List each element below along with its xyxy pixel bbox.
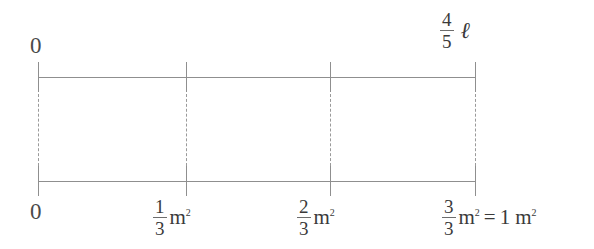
fraction-two-thirds: 2 3 bbox=[296, 197, 312, 238]
top-axis-line bbox=[38, 77, 476, 78]
unit-base: m bbox=[170, 205, 186, 229]
unit-base: m bbox=[515, 205, 531, 229]
top-axis-start-label: 0 bbox=[30, 34, 42, 57]
top-tick-0 bbox=[38, 62, 39, 92]
fraction-denominator: 3 bbox=[152, 218, 168, 238]
bottom-tick-3 bbox=[475, 166, 476, 196]
bottom-axis-label-three-thirds: 3 3 m2 = 1 m2 bbox=[441, 197, 537, 238]
unit-square-metre: m2 bbox=[457, 205, 480, 230]
unit-square-metre: m2 bbox=[168, 205, 191, 230]
fraction-denominator: 3 bbox=[296, 218, 312, 238]
unit-exponent: 2 bbox=[330, 207, 335, 218]
connector-dashed-1 bbox=[186, 94, 187, 166]
number-line-diagram: 0 4 5 ℓ 0 1 3 m2 2 3 m2 bbox=[0, 0, 594, 249]
top-axis-end-label: 4 5 ℓ bbox=[439, 10, 470, 51]
bottom-tick-0 bbox=[38, 166, 39, 196]
top-tick-2 bbox=[330, 62, 331, 92]
equivalent-value: 1 bbox=[500, 205, 511, 230]
top-tick-1 bbox=[186, 62, 187, 92]
bottom-tick-1 bbox=[186, 166, 187, 196]
connector-dashed-2 bbox=[330, 94, 331, 166]
top-tick-3 bbox=[475, 62, 476, 92]
unit-exponent: 2 bbox=[532, 207, 537, 218]
fraction-three-thirds: 3 3 bbox=[441, 197, 457, 238]
equivalent-unit-square-metre: m2 bbox=[510, 205, 536, 230]
bottom-axis-start-label: 0 bbox=[30, 200, 42, 223]
fraction-denominator: 3 bbox=[441, 218, 457, 238]
unit-base: m bbox=[459, 205, 475, 229]
fraction-numerator: 4 bbox=[439, 10, 455, 30]
fraction-numerator: 3 bbox=[441, 197, 457, 217]
bottom-axis-label-two-thirds: 2 3 m2 bbox=[296, 197, 335, 238]
fraction-denominator: 5 bbox=[439, 31, 455, 51]
bottom-axis-label-one-third: 1 3 m2 bbox=[152, 197, 191, 238]
bottom-tick-2 bbox=[330, 166, 331, 196]
fraction-one-third: 1 3 bbox=[152, 197, 168, 238]
fraction-four-fifths: 4 5 bbox=[439, 10, 455, 51]
connector-dashed-3 bbox=[475, 94, 476, 166]
ell-symbol: ℓ bbox=[455, 18, 471, 44]
bottom-axis-line bbox=[38, 181, 476, 182]
fraction-numerator: 1 bbox=[152, 197, 168, 217]
equals-sign: = bbox=[480, 205, 500, 230]
unit-exponent: 2 bbox=[186, 207, 191, 218]
unit-base: m bbox=[314, 205, 330, 229]
connector-dashed-0 bbox=[38, 94, 39, 166]
fraction-numerator: 2 bbox=[296, 197, 312, 217]
unit-square-metre: m2 bbox=[312, 205, 335, 230]
